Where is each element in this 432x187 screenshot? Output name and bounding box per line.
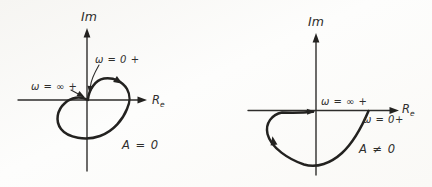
left-im-axis-label: Im — [81, 9, 97, 24]
left-re-axis-label: Re — [152, 93, 165, 109]
right-curve-origin-arrowhead — [307, 108, 315, 114]
right-re-label-subscript: e — [410, 109, 415, 118]
left-plot: Im Re ω = 0 + ω = ∞ + A = 0 — [18, 9, 165, 171]
left-omega-zero-label: ω = 0 + — [95, 54, 140, 65]
right-omega-zero-label: ω = 0+ — [363, 114, 404, 125]
right-im-axis-label: Im — [308, 14, 324, 29]
right-plot: Im Re ω = ∞ + ω = 0+ A ≠ 0 — [248, 14, 415, 175]
right-omega-inf-label: ω = ∞ + — [321, 96, 368, 107]
scanned-figure: Im Re ω = 0 + ω = ∞ + A = 0 Im Re ω = ∞ … — [0, 0, 432, 187]
left-re-label-subscript: e — [160, 100, 165, 109]
right-re-axis-arrowhead — [390, 107, 400, 114]
left-re-axis-arrowhead — [138, 97, 148, 104]
right-nyquist-curve — [267, 111, 369, 166]
right-im-axis-arrowhead — [313, 33, 320, 43]
left-omega-inf-label: ω = ∞ + — [31, 81, 78, 92]
left-gain-label: A = 0 — [121, 138, 159, 152]
right-re-axis-label: Re — [402, 102, 415, 118]
right-gain-label: A ≠ 0 — [358, 142, 396, 156]
left-re-label-main: R — [152, 93, 160, 107]
left-im-axis-arrowhead — [84, 28, 91, 38]
nyquist-figure: Im Re ω = 0 + ω = ∞ + A = 0 Im Re ω = ∞ … — [0, 0, 432, 187]
